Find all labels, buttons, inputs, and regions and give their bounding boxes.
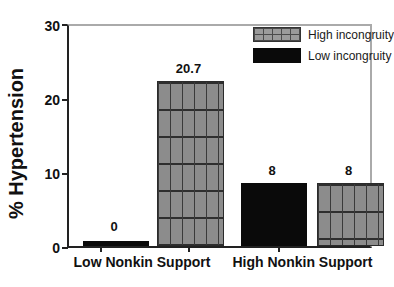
x-tick-mark-1 bbox=[100, 247, 102, 252]
bar-low-support-low-incongruity[interactable] bbox=[83, 241, 149, 246]
legend-swatch-low-incongruity-icon bbox=[253, 48, 301, 63]
bar-value-low-support-low-incongruity: 0 bbox=[81, 219, 147, 234]
legend-item-high-incongruity[interactable]: High incongruity bbox=[253, 27, 394, 42]
bar-value-high-support-high-incongruity: 8 bbox=[315, 163, 382, 178]
y-tick-label-30: 30 bbox=[26, 18, 60, 34]
y-tick-label-0: 0 bbox=[26, 240, 60, 256]
x-axis-label-high-nonkin-support: High Nonkin Support bbox=[220, 254, 385, 270]
y-tick-label-10: 10 bbox=[26, 166, 60, 182]
legend-item-low-incongruity[interactable]: Low incongruity bbox=[253, 48, 394, 63]
bar-high-support-low-incongruity[interactable] bbox=[241, 183, 307, 246]
legend: High incongruity Low incongruity bbox=[253, 27, 394, 63]
x-tick-mark-2 bbox=[188, 247, 190, 252]
y-axis-tick-labels: 30 20 10 0 bbox=[26, 0, 60, 287]
legend-swatch-high-incongruity-icon bbox=[253, 27, 301, 42]
bar-low-support-high-incongruity[interactable] bbox=[157, 81, 224, 246]
legend-label-low-incongruity: Low incongruity bbox=[308, 49, 391, 63]
legend-label-high-incongruity: High incongruity bbox=[308, 28, 394, 42]
bar-value-high-support-low-incongruity: 8 bbox=[239, 163, 305, 178]
bar-high-support-high-incongruity[interactable] bbox=[317, 183, 384, 246]
y-tick-label-20: 20 bbox=[26, 92, 60, 108]
x-tick-mark-3 bbox=[278, 247, 280, 252]
x-axis-label-low-nonkin-support: Low Nonkin Support bbox=[62, 254, 222, 270]
bar-value-low-support-high-incongruity: 20.7 bbox=[155, 61, 222, 76]
